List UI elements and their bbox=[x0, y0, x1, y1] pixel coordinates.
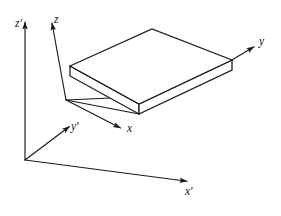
y-prime-axis bbox=[25, 127, 70, 161]
x-prime-axis-label: x′ bbox=[185, 186, 193, 198]
z-axis-label: z bbox=[54, 14, 58, 26]
y-prime-axis-label: y′ bbox=[71, 121, 79, 133]
x-prime-axis bbox=[25, 160, 187, 181]
z-prime-axis-label: z′ bbox=[15, 18, 22, 30]
coordinate-frames-diagram bbox=[0, 0, 281, 216]
y-axis-label: y bbox=[259, 36, 264, 48]
x-axis-label: x bbox=[127, 123, 132, 135]
slab-top-face bbox=[70, 29, 232, 104]
figure-container: z′ z y y′ x x′ bbox=[0, 0, 281, 216]
rectangular-slab bbox=[70, 29, 232, 114]
z-axis bbox=[52, 23, 66, 100]
